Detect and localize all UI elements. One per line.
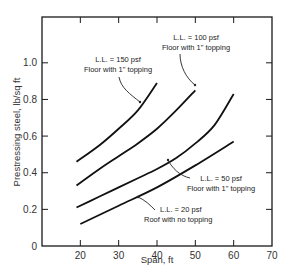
annotation-50psf-line1: L.L. = 50 psf [200, 174, 242, 183]
y-tick-label: 0.6 [23, 131, 37, 142]
x-tick-label: 20 [75, 250, 87, 261]
annotation-20psf-line1: L.L. = 20 psf [160, 205, 202, 214]
annotation-150psf-line1: L.L. = 150 psf [95, 55, 142, 64]
x-axis-title: Span, ft [141, 254, 174, 265]
annotation-100psf: L.L. = 100 psf Floor with 1" topping [162, 33, 230, 52]
y-tick-label: 0.8 [23, 94, 37, 105]
y-tick-label: 1.0 [23, 57, 37, 68]
plot-frame [42, 17, 272, 246]
chart: 20304050607000.20.40.60.81.0 Span, ft Pr… [0, 0, 291, 277]
axis-ticks: 20304050607000.20.40.60.81.0 [23, 17, 278, 261]
x-tick-label: 60 [228, 250, 240, 261]
annotation-50psf: L.L. = 50 psf Floor with 1" topping [187, 174, 255, 193]
curve-series-1 [77, 90, 196, 185]
annotation-50psf-line2: Floor with 1" topping [187, 184, 255, 193]
annotation-20psf: L.L. = 20 psf Roof with no topping [144, 205, 212, 224]
y-tick-label: 0.2 [23, 204, 37, 215]
x-tick-label: 70 [266, 250, 278, 261]
y-tick-label: 0.4 [23, 167, 37, 178]
annotation-100psf-line1: L.L. = 100 psf [173, 33, 220, 42]
curves [77, 83, 234, 224]
y-axis-title: Prestressing steel, lb/sq ft [11, 77, 22, 186]
annotation-150psf-line2: Floor with 1" topping [84, 65, 152, 74]
leader-arrow-1 [180, 54, 195, 85]
x-tick-label: 50 [190, 250, 202, 261]
annotation-150psf: L.L. = 150 psf Floor with 1" topping [84, 55, 152, 74]
leader-arrow-0 [119, 77, 140, 102]
annotation-100psf-line2: Floor with 1" topping [162, 43, 230, 52]
y-tick-label: 0 [31, 241, 37, 252]
curve-series-0 [77, 83, 158, 162]
annotation-20psf-line2: Roof with no topping [144, 215, 212, 224]
x-tick-label: 30 [113, 250, 125, 261]
leader-arrow-3 [138, 197, 155, 210]
